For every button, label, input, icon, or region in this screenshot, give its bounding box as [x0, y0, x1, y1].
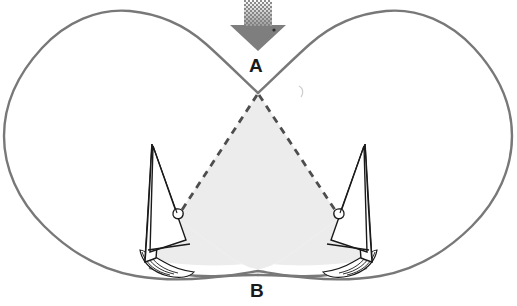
left-boat-jib [150, 146, 186, 252]
point-label-b: B [250, 281, 264, 300]
shaded-region-group [152, 93, 364, 269]
diagram-svg [0, 0, 517, 306]
scan-artifact [299, 86, 303, 97]
left-boat-bow-fitting [173, 209, 183, 219]
point-label-a: A [249, 56, 263, 75]
diagram-canvas: A B [0, 0, 517, 306]
arrow-speck [272, 28, 275, 31]
arrow-dither-fade [244, 0, 272, 26]
right-boat-bow-fitting [334, 209, 344, 219]
right-boat-jib [331, 146, 367, 252]
wind-direction-arrow [230, 0, 286, 51]
